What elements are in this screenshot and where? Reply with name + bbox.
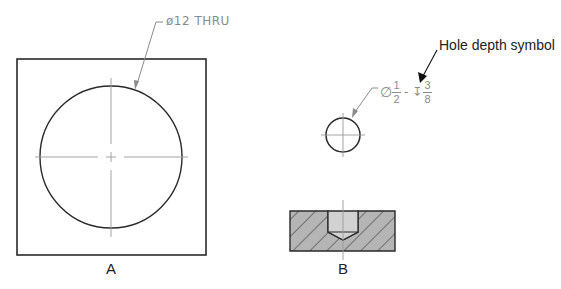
- depth-numerator: 3: [423, 80, 432, 91]
- view-b-leader: [355, 88, 378, 112]
- view-a-leader-arrow: [134, 80, 139, 90]
- view-a-label: A: [106, 260, 116, 277]
- depth-symbol-icon: ↧: [412, 85, 423, 99]
- depth-denominator: 8: [423, 94, 432, 105]
- hole-depth-annotation: Hole depth symbol: [439, 37, 555, 53]
- callout-separator: -: [404, 85, 409, 99]
- view-b-centerlines: [321, 113, 365, 157]
- diameter-fraction: 1 2: [392, 80, 401, 105]
- view-a-leader: [137, 22, 163, 84]
- depth-fraction: 3 8: [423, 80, 432, 105]
- view-a-callout-text: ø12 THRU: [166, 14, 230, 28]
- view-b-callout: ∅ 1 2 - ↧ 3 8: [380, 80, 460, 106]
- view-b-top: [321, 88, 378, 157]
- diameter-denominator: 2: [392, 94, 401, 105]
- view-b-label: B: [338, 260, 348, 277]
- diameter-numerator: 1: [392, 80, 401, 91]
- view-a: [17, 22, 206, 255]
- diameter-symbol: ∅: [380, 84, 393, 100]
- view-b-section: [290, 200, 395, 260]
- view-a-centerlines: [35, 78, 188, 237]
